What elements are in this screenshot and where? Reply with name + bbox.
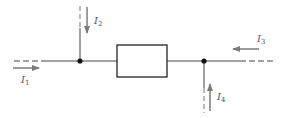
left-node <box>77 58 82 63</box>
circuit-diagram: I1 I2 I3 I4 <box>0 0 285 118</box>
label-i2: I2 <box>93 15 102 28</box>
label-i3: I3 <box>256 33 265 46</box>
right-node <box>201 58 206 63</box>
component-box <box>117 45 167 77</box>
label-i1: I1 <box>20 74 29 87</box>
label-i4: I4 <box>216 91 226 104</box>
